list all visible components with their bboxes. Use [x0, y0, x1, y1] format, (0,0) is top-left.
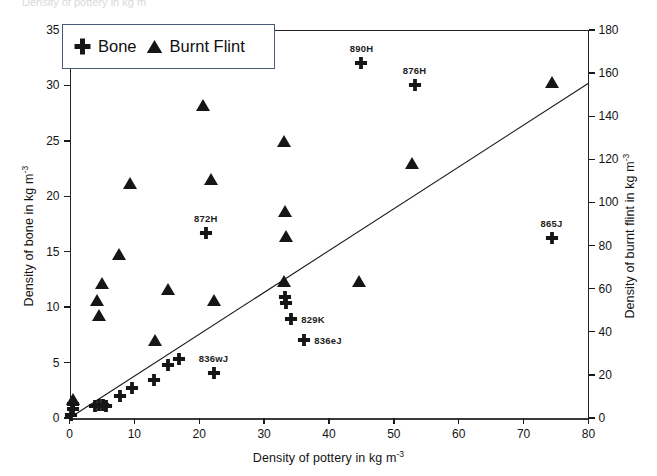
data-point-burnt-flint — [352, 275, 366, 287]
y-right-tick-mark — [589, 417, 595, 418]
data-point-label: 872H — [194, 213, 218, 224]
exponent: -3 — [20, 166, 30, 174]
y-right-tick-label: 60 — [599, 282, 612, 296]
cross-marker-icon — [74, 38, 91, 55]
y-right-tick-mark — [589, 202, 595, 203]
data-point-burnt-flint — [204, 173, 218, 185]
data-point-burnt-flint — [207, 294, 221, 306]
data-point-bone — [173, 353, 186, 366]
legend-item-burnt-flint[interactable]: Burnt Flint — [146, 37, 245, 56]
data-point-bone — [147, 374, 160, 387]
x-tick-label: 50 — [387, 427, 400, 441]
data-point-label: 836wJ — [199, 353, 229, 364]
x-tick-mark — [458, 418, 459, 424]
x-axis-title: Density of pottery in kg m-3 — [0, 449, 657, 465]
y-left-tick-label: 0 — [26, 411, 60, 425]
x-tick-mark — [588, 418, 589, 424]
data-point-burnt-flint — [92, 309, 106, 321]
y-right-tick-label: 180 — [599, 23, 619, 37]
x-tick-label: 60 — [452, 427, 465, 441]
regression-line — [70, 83, 589, 418]
y-left-tick-mark — [64, 306, 70, 307]
data-point-bone — [199, 226, 212, 239]
legend-item-bone[interactable]: Bone — [74, 37, 137, 56]
data-point-burnt-flint — [405, 157, 419, 169]
legend-label-burnt-flint: Burnt Flint — [170, 37, 245, 56]
x-tick-mark — [69, 418, 70, 424]
data-point-bone — [355, 57, 368, 70]
y-right-tick-label: 0 — [599, 411, 606, 425]
data-point-bone — [126, 382, 139, 395]
y-left-tick-mark — [64, 251, 70, 252]
data-point-bone — [99, 399, 112, 412]
y-axis-title-left: Density of bone in kg m-3 — [20, 86, 36, 386]
y-right-tick-label: 100 — [599, 195, 619, 209]
y-right-tick-mark — [589, 159, 595, 160]
data-point-burnt-flint — [112, 248, 126, 260]
y-right-tick-label: 20 — [599, 368, 612, 382]
x-tick-mark — [134, 418, 135, 424]
y-left-tick-mark — [64, 362, 70, 363]
data-point-burnt-flint — [66, 393, 80, 405]
y-right-tick-label: 140 — [599, 109, 619, 123]
y-right-tick-label: 120 — [599, 152, 619, 166]
y-left-tick-mark — [64, 196, 70, 197]
x-tick-mark — [328, 418, 329, 424]
data-point-burnt-flint — [161, 283, 175, 295]
y-right-tick-mark — [589, 116, 595, 117]
data-point-burnt-flint — [123, 177, 137, 189]
data-point-bone — [207, 366, 220, 379]
data-point-burnt-flint — [277, 135, 291, 147]
x-tick-label: 40 — [322, 427, 335, 441]
data-point-burnt-flint — [148, 334, 162, 346]
x-tick-label: 80 — [582, 427, 595, 441]
data-point-bone — [114, 389, 127, 402]
scatter-plot-figure: Density of pottery in kg m 872H836wJ829K… — [0, 0, 657, 476]
y-axis-title-right: Density of burnt flint in kg m-3 — [621, 86, 637, 386]
y-right-tick-label: 80 — [599, 239, 612, 253]
data-point-label: 865J — [541, 218, 563, 229]
data-point-bone — [545, 232, 558, 245]
x-tick-mark — [523, 418, 524, 424]
x-tick-label: 70 — [517, 427, 530, 441]
x-tick-label: 20 — [193, 427, 206, 441]
y-left-tick-mark — [64, 140, 70, 141]
x-tick-label: 10 — [128, 427, 141, 441]
data-point-label: 836eJ — [314, 335, 341, 346]
y-right-tick-label: 160 — [599, 66, 619, 80]
x-tick-mark — [263, 418, 264, 424]
y-right-tick-mark — [589, 288, 595, 289]
data-point-bone — [280, 296, 293, 309]
y-left-tick-mark — [64, 417, 70, 418]
x-tick-label: 0 — [66, 427, 73, 441]
triangle-marker-icon — [146, 39, 163, 54]
y-left-tick-mark — [64, 85, 70, 86]
legend-box[interactable]: Bone Burnt Flint — [62, 24, 275, 69]
y-right-tick-mark — [589, 29, 595, 30]
y-right-tick-label: 40 — [599, 325, 612, 339]
data-point-burnt-flint — [90, 294, 104, 306]
y-right-tick-mark — [589, 374, 595, 375]
exponent: -3 — [396, 449, 404, 459]
data-point-burnt-flint — [277, 275, 291, 287]
exponent: -3 — [621, 154, 631, 162]
data-point-burnt-flint — [278, 205, 292, 217]
y-right-tick-mark — [589, 245, 595, 246]
y-left-tick-label: 35 — [26, 23, 60, 37]
legend-label-bone: Bone — [98, 37, 137, 56]
x-tick-mark — [199, 418, 200, 424]
data-point-label: 890H — [350, 43, 374, 54]
x-tick-mark — [393, 418, 394, 424]
data-point-bone — [408, 79, 421, 92]
data-point-burnt-flint — [196, 99, 210, 111]
data-point-label: 829K — [301, 314, 325, 325]
data-point-burnt-flint — [95, 277, 109, 289]
data-point-burnt-flint — [279, 230, 293, 242]
data-point-label: 876H — [403, 65, 427, 76]
data-point-bone — [298, 334, 311, 347]
x-tick-label: 30 — [257, 427, 270, 441]
y-right-tick-mark — [589, 72, 595, 73]
data-point-bone — [285, 313, 298, 326]
data-point-burnt-flint — [545, 76, 559, 88]
y-right-tick-mark — [589, 331, 595, 332]
